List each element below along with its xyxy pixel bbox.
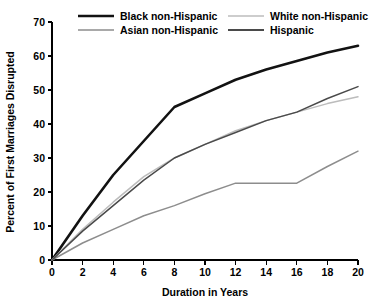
y-axis-tick-label: 40 xyxy=(33,118,45,130)
series-line-asian-non-hispanic xyxy=(52,151,358,260)
x-axis-tick-label: 6 xyxy=(141,266,147,278)
legend-label: Asian non-Hispanic xyxy=(120,24,218,36)
x-axis-tick-label: 16 xyxy=(291,266,303,278)
x-axis-tick-label: 4 xyxy=(110,266,116,278)
legend-label: Black non-Hispanic xyxy=(120,10,218,22)
legend-label: Hispanic xyxy=(270,24,314,36)
series-line-hispanic xyxy=(52,87,358,260)
chart-container: Black non-HispanicWhite non-HispanicAsia… xyxy=(0,0,378,302)
x-axis-tick-label: 14 xyxy=(260,266,272,278)
y-axis-tick-label: 60 xyxy=(33,50,45,62)
y-axis-tick-label: 70 xyxy=(33,16,45,28)
x-axis-tick-label: 10 xyxy=(199,266,211,278)
y-axis-title: Percent of First Marriages Disrupted xyxy=(4,51,16,232)
x-axis-tick-label: 8 xyxy=(171,266,177,278)
x-axis: 02468101214161820 xyxy=(49,260,364,278)
line-chart: Black non-HispanicWhite non-HispanicAsia… xyxy=(0,0,378,302)
legend-label: White non-Hispanic xyxy=(270,10,368,22)
x-axis-tick-label: 20 xyxy=(352,266,364,278)
chart-legend: Black non-HispanicWhite non-HispanicAsia… xyxy=(78,10,368,36)
y-axis-tick-label: 10 xyxy=(33,220,45,232)
y-axis-tick-label: 30 xyxy=(33,152,45,164)
x-axis-tick-label: 2 xyxy=(80,266,86,278)
y-axis-tick-label: 20 xyxy=(33,186,45,198)
series-line-black-non-hispanic xyxy=(52,46,358,260)
y-axis-tick-label: 0 xyxy=(39,254,45,266)
y-axis: 010203040506070 xyxy=(33,16,52,266)
x-axis-title: Duration in Years xyxy=(162,286,248,298)
x-axis-tick-label: 12 xyxy=(230,266,242,278)
x-axis-tick-label: 0 xyxy=(49,266,55,278)
y-axis-tick-label: 50 xyxy=(33,84,45,96)
chart-series xyxy=(52,46,358,260)
x-axis-tick-label: 18 xyxy=(322,266,334,278)
